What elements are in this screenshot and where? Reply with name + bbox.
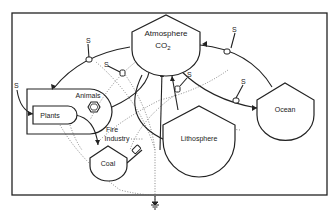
atmosphere-label: Atmosphere	[144, 29, 188, 38]
coal-label: Coal	[101, 160, 116, 167]
carbon-cycle-diagram: Atmosphere CO2 Ocean Lithosphere Animals…	[0, 0, 333, 215]
source-label: S	[187, 71, 192, 78]
source-label: S	[86, 37, 91, 44]
plants-label: Plants	[40, 112, 60, 119]
animals-label: Animals	[76, 92, 101, 99]
workgate-icon	[120, 70, 125, 76]
workgate-icon	[175, 86, 180, 92]
workgate-icon	[86, 57, 92, 62]
source-label: S	[241, 78, 246, 85]
source-label: S	[232, 26, 237, 33]
source-labels: S S S S S S	[14, 26, 246, 89]
source-label: S	[104, 61, 109, 68]
ocean-label: Ocean	[275, 106, 296, 113]
source-label: S	[14, 82, 19, 89]
workgate-icon	[224, 49, 230, 54]
fire-label: Fire	[106, 126, 118, 133]
workgate-icon	[233, 98, 239, 103]
hexagon-consumer-icon	[88, 102, 100, 112]
industry-label: Industry	[105, 135, 130, 143]
lithosphere-label: Lithosphere	[181, 135, 218, 143]
heat-sink-ground-icon	[151, 196, 159, 209]
